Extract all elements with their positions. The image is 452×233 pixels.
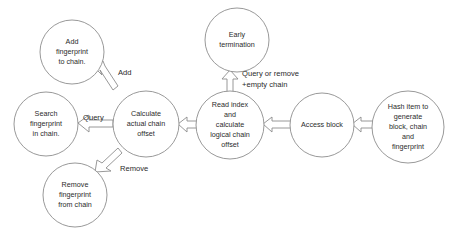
edge-label-add: Add xyxy=(118,68,132,77)
node-calculate-line-3: offset xyxy=(137,129,154,138)
edge-remove-arrow xyxy=(95,148,122,172)
flowchart-diagram: Add fingerprint to chain. Search fingerp… xyxy=(0,0,452,233)
node-search-fingerprint-line-3: in chain. xyxy=(33,129,60,138)
edge-early-termination xyxy=(222,70,238,93)
node-add-fingerprint-line-2: fingerprint xyxy=(56,47,88,56)
edge-access-to-read-arrow xyxy=(263,117,291,132)
node-remove-fingerprint-line-2: fingerprint xyxy=(59,190,91,199)
node-read-index-line-4: logical chain xyxy=(210,130,250,139)
node-early-termination-line-1: Early xyxy=(229,30,246,39)
node-hash-item-line-3: block, chain xyxy=(389,122,427,131)
node-add-fingerprint-line-1: Add xyxy=(66,37,79,46)
node-access-block-line-1: Access block xyxy=(301,120,343,129)
edge-label-remove: Remove xyxy=(120,164,148,173)
node-calculate-line-2: actual chain xyxy=(127,119,165,128)
node-hash-item-line-5: fingerprint xyxy=(392,142,424,151)
edge-remove xyxy=(95,148,122,172)
node-read-index-line-5: offset xyxy=(221,140,238,149)
edge-label-query: Query xyxy=(83,113,104,122)
node-read-index-line-2: and xyxy=(224,110,236,119)
node-early-termination-line-2: termination xyxy=(219,40,255,49)
node-read-index[interactable]: Read index and calculate logical chain o… xyxy=(196,91,264,159)
edge-label-early-termination-line-2: +empty chain xyxy=(242,80,287,89)
node-add-fingerprint-line-3: to chain. xyxy=(58,57,85,66)
node-search-fingerprint-line-2: fingerprint xyxy=(30,119,62,128)
node-access-block[interactable]: Access block xyxy=(290,93,354,157)
edge-label-early-termination-line-1: Query or remove xyxy=(242,69,299,78)
edge-read-to-calculate xyxy=(178,117,197,132)
node-read-index-line-1: Read index xyxy=(212,100,249,109)
edge-early-termination-arrow xyxy=(222,70,238,93)
node-search-fingerprint-line-1: Search xyxy=(35,109,58,118)
edge-access-to-read xyxy=(263,117,291,132)
diagram-canvas: Add fingerprint to chain. Search fingerp… xyxy=(0,0,452,233)
node-remove-fingerprint-line-3: from chain xyxy=(58,200,92,209)
node-hash-item-line-4: and xyxy=(402,132,414,141)
node-calculate-actual-chain-offset[interactable]: Calculate actual chain offset xyxy=(113,91,179,157)
node-remove-fingerprint-line-1: Remove xyxy=(62,180,89,189)
node-read-index-line-3: calculate xyxy=(216,120,244,129)
edge-read-to-calculate-arrow xyxy=(178,117,197,132)
node-remove-fingerprint[interactable]: Remove fingerprint from chain xyxy=(43,163,107,227)
node-search-fingerprint[interactable]: Search fingerprint in chain. xyxy=(14,92,78,156)
node-hash-item[interactable]: Hash item to generate block, chain and f… xyxy=(372,91,444,163)
node-calculate-line-1: Calculate xyxy=(131,109,161,118)
node-add-fingerprint[interactable]: Add fingerprint to chain. xyxy=(40,20,104,84)
node-hash-item-line-1: Hash item to xyxy=(388,102,428,111)
node-early-termination[interactable]: Early termination xyxy=(205,8,269,72)
node-hash-item-line-2: generate xyxy=(394,112,422,121)
